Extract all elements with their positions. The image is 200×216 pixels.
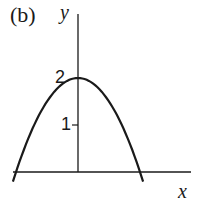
chart-canvas — [0, 0, 200, 216]
parabola-figure: (b) y x 2 1 — [0, 0, 200, 216]
x-axis-label: x — [178, 180, 187, 203]
y-tick-label-1: 1 — [61, 114, 71, 135]
y-axis-label: y — [60, 1, 69, 24]
panel-label: (b) — [10, 2, 36, 28]
y-tick-label-2: 2 — [55, 67, 65, 88]
